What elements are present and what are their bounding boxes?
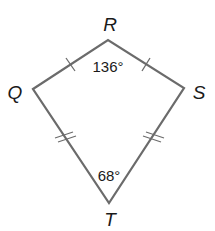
tick-mark-qr bbox=[66, 58, 75, 71]
vertex-label-q: Q bbox=[8, 82, 23, 103]
angle-label-r: 136° bbox=[92, 58, 123, 75]
vertex-label-r: R bbox=[103, 14, 117, 35]
vertex-label-s: S bbox=[193, 82, 206, 103]
angle-label-t: 68° bbox=[98, 167, 121, 184]
vertex-label-t: T bbox=[104, 209, 117, 230]
kite-diagram: R Q S T 136° 68° bbox=[0, 0, 215, 231]
